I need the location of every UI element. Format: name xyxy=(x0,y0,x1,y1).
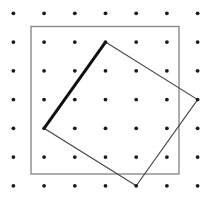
grid-dot xyxy=(73,69,77,73)
grid-dot xyxy=(196,11,200,15)
grid-dot xyxy=(42,155,46,159)
grid-dot xyxy=(42,11,46,15)
grid-dot xyxy=(196,126,200,130)
grid-dot xyxy=(165,155,169,159)
grid-dot xyxy=(42,126,46,130)
grid-dot xyxy=(104,40,108,44)
tilted-square xyxy=(44,42,198,186)
grid-dot xyxy=(12,69,16,73)
grid-dot xyxy=(73,11,77,15)
grid-dot xyxy=(12,184,16,188)
grid-dot xyxy=(196,98,200,102)
bold-edge xyxy=(44,42,105,128)
grid-dot xyxy=(73,126,77,130)
grid-dot xyxy=(73,184,77,188)
grid-dot xyxy=(12,40,16,44)
grid-dot xyxy=(134,126,138,130)
grid-dot xyxy=(104,126,108,130)
grid-dot xyxy=(104,155,108,159)
grid-dot xyxy=(196,184,200,188)
grid-dot xyxy=(42,40,46,44)
grid-dot xyxy=(196,69,200,73)
grid-dot xyxy=(134,69,138,73)
grid-dot xyxy=(165,11,169,15)
grid-dot xyxy=(196,40,200,44)
grid-dot xyxy=(73,98,77,102)
grid-dot xyxy=(104,184,108,188)
grid-dot xyxy=(42,69,46,73)
grid-dot xyxy=(104,69,108,73)
geoboard-figure xyxy=(0,0,209,197)
grid-dot xyxy=(165,69,169,73)
grid-dot xyxy=(12,155,16,159)
grid-dot xyxy=(134,11,138,15)
grid-dot xyxy=(134,155,138,159)
grid-dot xyxy=(165,126,169,130)
grid-dot xyxy=(42,98,46,102)
grid-dot xyxy=(165,184,169,188)
grid-dot xyxy=(104,98,108,102)
grid-dot xyxy=(12,11,16,15)
grid-dot xyxy=(165,98,169,102)
grid-dot xyxy=(134,184,138,188)
grid-dot xyxy=(12,98,16,102)
grid-dot xyxy=(73,155,77,159)
grid-dot xyxy=(12,126,16,130)
grid-dot xyxy=(42,184,46,188)
grid-dot xyxy=(134,98,138,102)
grid-dot xyxy=(73,40,77,44)
geoboard-svg xyxy=(0,0,209,197)
grid-dot xyxy=(196,155,200,159)
grid-dot xyxy=(165,40,169,44)
grid-dot xyxy=(104,11,108,15)
grid-dot xyxy=(134,40,138,44)
